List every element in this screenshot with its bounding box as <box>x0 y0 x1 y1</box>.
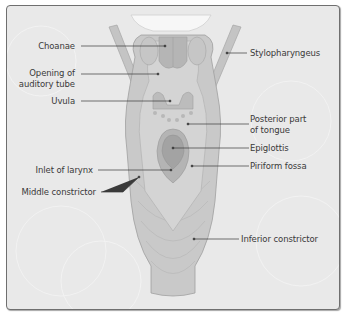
label-inlet-of-larynx: Inlet of larynx <box>36 165 93 176</box>
label-auditory-tube-line2: auditory tube <box>19 79 75 90</box>
skull-base <box>131 15 211 31</box>
label-uvula: Uvula <box>51 96 75 107</box>
torus-right <box>188 37 206 65</box>
label-middle-constrictor: Middle constrictor <box>21 187 96 198</box>
label-auditory-tube-line1: Opening of <box>29 68 75 79</box>
label-stylopharyngeus: Stylopharyngeus <box>250 48 320 59</box>
label-epiglottis: Epiglottis <box>250 143 289 154</box>
label-posterior-tongue-line2: of tongue <box>250 125 290 136</box>
label-posterior-tongue-line1: Posterior part <box>250 114 306 125</box>
label-piriform-fossa: Piriform fossa <box>250 161 307 172</box>
torus-left <box>140 37 158 65</box>
diagram-frame: Choanae Opening of auditory tube Uvula I… <box>6 5 340 310</box>
label-choanae: Choanae <box>38 41 75 52</box>
label-inferior-constrictor: Inferior constrictor <box>241 234 318 245</box>
